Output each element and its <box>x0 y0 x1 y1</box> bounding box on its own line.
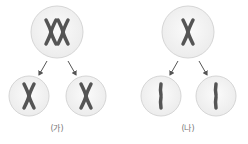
arrow-right-ga <box>68 61 76 75</box>
panel-label-ga: (가) <box>37 122 77 133</box>
chromatid-na-2 <box>216 84 217 108</box>
panel-na <box>141 6 236 116</box>
panel-label-na: (나) <box>168 122 208 133</box>
chromatid-na-1 <box>161 84 162 108</box>
panel-ga <box>9 6 106 116</box>
arrow-right-na <box>199 61 207 75</box>
arrow-left-ga <box>39 61 47 75</box>
arrow-left-na <box>170 61 178 75</box>
parent-cell-ga <box>31 6 83 58</box>
